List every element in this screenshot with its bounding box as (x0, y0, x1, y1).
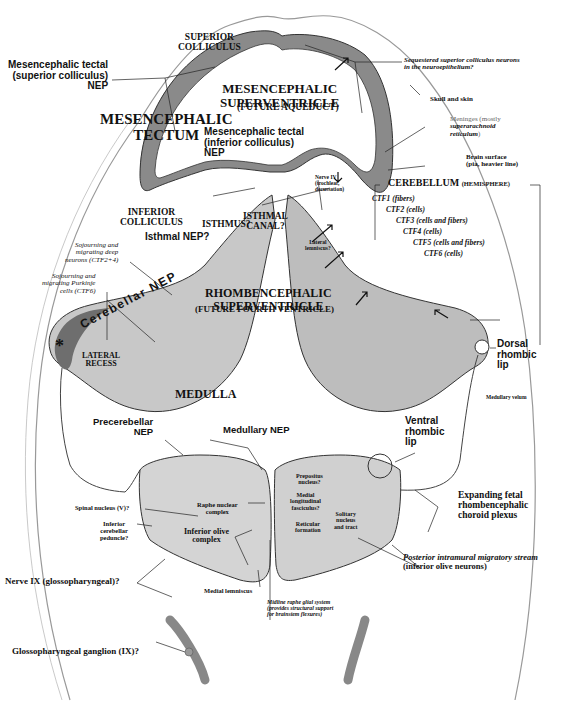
label-raphe-nuclear-complex: Raphe nuclear complex (197, 502, 238, 516)
label-future-fourth-ventricle: (FUTURE FOURTH VENTRICLE) (195, 305, 334, 314)
label-glossopharyngeal-ganglion: Glossopharyngeal ganglion (IX)? (12, 647, 139, 656)
label-ctf1: CTF1 (fibers) (372, 195, 415, 203)
label-posterior-intramural-migratory-stream: Posterior intramural migratory stream(in… (403, 553, 538, 571)
label-medial-lemniscus: Medial lemniscus (204, 588, 252, 595)
label-medulla: MEDULLA (175, 388, 236, 401)
cerebellum-subtitle: (HEMISPHERE) (462, 180, 510, 187)
label-nerve-ix: Nerve IX (glossopharyngeal)? (5, 577, 120, 586)
label-sojourning-deep-neurons: Sojourning and migrating deep neurons (C… (65, 242, 118, 264)
label-isthmal-nep: Isthmal NEP? (145, 232, 209, 243)
label-ctf3: CTF3 (cells and fibers) (396, 217, 468, 225)
label-meninges: Meninges (mostlysuperarachnoid reticulum… (450, 116, 501, 138)
label-superior-colliculus: SUPERIOR COLLICULUS (178, 33, 241, 53)
ganglion-right (348, 620, 365, 680)
label-spinal-nucleus: Spinal nucleus (V)? (75, 505, 129, 512)
label-tectal-ic-nep: Mesencephalic tectal (inferior colliculu… (204, 127, 304, 159)
label-sojourning-purkinje: Sojourning and migrating Purkinje cells … (42, 273, 95, 295)
label-reticular-formation: Reticular formation (295, 521, 321, 534)
label-midline-raphe-glial-system: Midline raphe glial system (provides str… (267, 599, 333, 617)
label-ctf5: CTF5 (cells and fibers) (413, 239, 485, 247)
label-nerve-iv: Nerve IV (trochlear, decussation) (315, 175, 344, 192)
label-medial-longitudinal-fasciculus: Medial longitudinal fasciculus? (290, 492, 321, 511)
label-tectal-sc-nep: Mesencephalic tectal (superior colliculu… (8, 60, 108, 92)
medulla-left (139, 455, 271, 582)
label-inferior-colliculus: INFERIOR COLLICULUS (120, 208, 183, 228)
label-lateral-lemniscus: Lateral lemniscus? (305, 240, 331, 252)
label-dorsal-rhombic-lip: Dorsal rhombic lip (497, 339, 536, 371)
label-medullary-velum: Medullary velum (486, 395, 526, 401)
meninges-line-2: superarachnoid reticulum (450, 122, 496, 137)
label-sequestered-neurons: Sequestered superior colliculus neurons … (404, 57, 520, 72)
label-ventral-rhombic-lip: Ventral rhombic lip (405, 416, 444, 448)
label-solitary-nucleus: Solitary nucleus and tract (334, 511, 358, 530)
label-medullary-nep: Medullary NEP (223, 425, 290, 435)
label-lateral-recess: LATERAL RECESS (82, 352, 120, 369)
brain-section-diagram: SUPERIOR COLLICULUS MESENCEPHALIC TECTUM… (0, 0, 565, 702)
meninges-line-3: ) (478, 130, 480, 138)
label-precerebellar-nep: Precerebellar NEP (93, 417, 153, 437)
label-ctf6: CTF6 (cells) (424, 250, 463, 258)
dorsal-rhombic-lip-circle (475, 340, 489, 354)
label-ctf2: CTF2 (cells) (386, 206, 425, 214)
label-cerebellum: CEREBELLUM (HEMISPHERE) (388, 178, 510, 189)
pims-subtitle: (inferior olive neurons) (403, 561, 487, 571)
label-inferior-cerebellar-peduncle: Inferior cerebellar peduncle? (100, 521, 128, 541)
label-prepositus-nucleus: Prepositus nucleus? (296, 473, 323, 486)
cerebellum-title: CEREBELLUM (388, 177, 459, 188)
asterisk-marker: * (55, 337, 64, 356)
label-ctf4: CTF4 (cells) (403, 228, 442, 236)
label-isthmal-canal: ISTHMAL CANAL? (243, 212, 288, 232)
scalp-outline (25, 118, 132, 700)
label-future-aqueduct: (FUTURE AQUEDUCT) (237, 103, 339, 113)
label-choroid-plexus: Expanding fetal rhombencephalic choroid … (458, 491, 528, 521)
glossopharyngeal-ganglion-dot (185, 648, 193, 656)
label-skull-and-skin: Skull and skin (430, 96, 473, 103)
label-inferior-olive-complex: Inferior olive complex (184, 528, 229, 545)
label-brain-surface: Brain surface (pia, heavier line) (466, 154, 518, 169)
